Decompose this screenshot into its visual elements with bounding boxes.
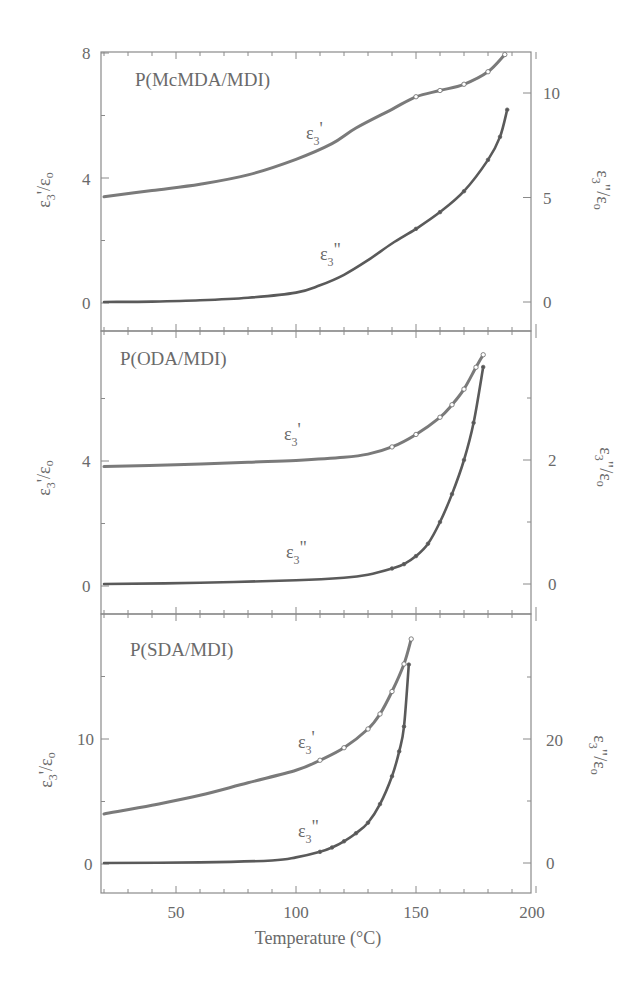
panel-1-right-tick-0: 0: [543, 293, 552, 312]
panel-1-title: P(McMDA/MDI): [135, 69, 270, 91]
open-circle-marker: [409, 637, 413, 641]
filled-circle-marker: [318, 850, 322, 854]
panel-2-right-tick-0: 0: [548, 575, 557, 594]
x-tick-100: 100: [283, 903, 309, 922]
open-circle-marker: [438, 415, 442, 419]
filled-circle-marker: [390, 567, 394, 571]
svg-text:ε3"/εo: ε3"/εo: [589, 170, 613, 209]
filled-circle-marker: [390, 774, 394, 778]
open-circle-marker: [414, 95, 418, 99]
figure: P(McMDA/MDI) 8 4 0 10 5 0 ε3'/εo ε3"/εo …: [0, 0, 640, 986]
open-circle-marker: [481, 353, 485, 357]
open-circle-marker: [462, 387, 466, 391]
x-tick-200: 200: [519, 903, 545, 922]
panel-3-right-tick-0: 0: [546, 854, 555, 873]
filled-circle-marker: [426, 542, 430, 546]
open-circle-marker: [486, 70, 490, 74]
panel-1-curve-label-eps-double-prime: ε3": [320, 240, 341, 269]
eps-prime-curve: [104, 639, 411, 814]
filled-circle-marker: [378, 802, 382, 806]
panel-3: P(SDA/MDI) 10 0 20 0 ε3'/εo ε3"/εo ε3' ε…: [36, 639, 610, 874]
filled-circle-marker: [486, 158, 490, 162]
panel-2: P(ODA/MDI) 4 0 2 0 ε3'/εo ε3"/εo ε3' ε3": [34, 348, 616, 596]
filled-circle-marker: [462, 189, 466, 193]
svg-text:ε3'/εo: ε3'/εo: [34, 460, 58, 495]
panel-3-title: P(SDA/MDI): [130, 639, 233, 661]
x-axis-label: Temperature (°C): [255, 928, 381, 949]
panel-1: P(McMDA/MDI) 8 4 0 10 5 0 ε3'/εo ε3"/εo …: [34, 44, 613, 313]
filled-circle-marker: [330, 846, 334, 850]
panel-2-left-axis-label: ε3'/εo: [34, 460, 58, 495]
filled-circle-marker: [450, 492, 454, 496]
open-circle-marker: [474, 365, 478, 369]
open-circle-marker: [503, 52, 507, 56]
svg-text:ε3"/εo: ε3"/εo: [592, 447, 616, 486]
panel-2-left-tick-0: 0: [82, 577, 91, 596]
panel-1-right-axis-label: ε3"/εo: [589, 170, 613, 209]
panel-frames: [101, 52, 531, 893]
filled-circle-marker: [438, 520, 442, 524]
open-circle-marker: [450, 403, 454, 407]
filled-circle-marker: [414, 227, 418, 231]
filled-circle-marker: [402, 725, 406, 729]
open-circle-marker: [378, 712, 382, 716]
panel-1-frame: [101, 52, 531, 331]
filled-circle-marker: [472, 421, 476, 425]
panel-3-curve-label-eps-prime: ε3': [298, 728, 315, 757]
panel-2-title: P(ODA/MDI): [120, 348, 227, 370]
axis-ticks: [101, 52, 536, 893]
open-circle-marker: [318, 758, 322, 762]
panel-1-curve-label-eps-prime: ε3': [306, 119, 323, 148]
filled-circle-marker: [342, 840, 346, 844]
panel-1-left-axis-label: ε3'/εo: [34, 172, 58, 207]
svg-text:ε3'/εo: ε3'/εo: [36, 752, 60, 787]
filled-circle-marker: [414, 554, 418, 558]
panel-1-right-tick-10: 10: [543, 84, 560, 103]
panel-3-right-tick-20: 20: [546, 731, 563, 750]
filled-circle-marker: [366, 821, 370, 825]
eps-double-prime-curve: [104, 367, 483, 584]
open-circle-marker: [414, 432, 418, 436]
data-curves: [104, 52, 509, 863]
svg-text:ε3"/εo: ε3"/εo: [586, 735, 610, 774]
open-circle-marker: [390, 689, 394, 693]
panel-2-left-tick-4: 4: [82, 452, 91, 471]
panel-1-left-tick-8: 8: [82, 44, 91, 63]
x-tick-150: 150: [403, 903, 429, 922]
filled-circle-marker: [397, 750, 401, 754]
panel-2-frame: [101, 331, 531, 614]
eps-double-prime-curve: [104, 665, 409, 863]
filled-circle-marker: [498, 135, 502, 139]
panel-3-right-axis-label: ε3"/εo: [586, 735, 610, 774]
x-tick-50: 50: [168, 903, 185, 922]
panel-2-curve-label-eps-double-prime: ε3": [286, 538, 307, 567]
panel-3-left-axis-label: ε3'/εo: [36, 752, 60, 787]
x-axis: 50 100 150 200 Temperature (°C): [168, 903, 545, 949]
open-circle-marker: [402, 662, 406, 666]
filled-circle-marker: [505, 108, 509, 112]
eps-prime-curve: [104, 355, 483, 467]
panel-1-left-tick-0: 0: [82, 294, 91, 313]
filled-circle-marker: [481, 365, 485, 369]
panel-3-curve-label-eps-double-prime: ε3": [298, 817, 319, 846]
filled-circle-marker: [402, 562, 406, 566]
open-circle-marker: [366, 727, 370, 731]
filled-circle-marker: [407, 663, 411, 667]
panel-2-curve-label-eps-prime: ε3': [284, 420, 301, 449]
filled-circle-marker: [438, 210, 442, 214]
open-circle-marker: [342, 746, 346, 750]
panel-3-left-tick-0: 0: [84, 855, 93, 874]
panel-2-right-tick-2: 2: [548, 451, 557, 470]
panel-1-left-tick-4: 4: [82, 170, 91, 189]
svg-text:ε3'/εo: ε3'/εo: [34, 172, 58, 207]
panel-1-right-tick-5: 5: [543, 189, 552, 208]
panel-3-left-tick-10: 10: [77, 730, 94, 749]
open-circle-marker: [462, 82, 466, 86]
filled-circle-marker: [462, 458, 466, 462]
open-circle-marker: [438, 88, 442, 92]
filled-circle-marker: [354, 831, 358, 835]
panel-2-right-axis-label: ε3"/εo: [592, 447, 616, 486]
open-circle-marker: [390, 445, 394, 449]
